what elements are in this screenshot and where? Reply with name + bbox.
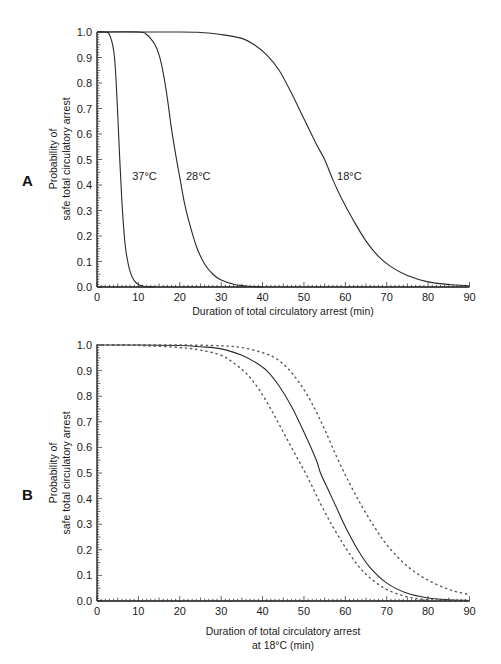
y-tick-label: 0.7 bbox=[77, 103, 92, 115]
x-tick-label: 30 bbox=[215, 605, 227, 617]
y-tick-label: 0.6 bbox=[77, 441, 92, 453]
figure: A Probability of safe total circulatory … bbox=[0, 0, 501, 664]
curve-lower-confidence-limit bbox=[97, 345, 470, 601]
y-tick-label: 0.8 bbox=[77, 77, 92, 89]
panel-a-curves bbox=[97, 32, 470, 287]
x-tick-label: 70 bbox=[381, 605, 393, 617]
y-tick-label: 0.9 bbox=[77, 52, 92, 64]
y-tick-label: 0.3 bbox=[77, 518, 92, 530]
panel-b-y-axis-title-line2: safe total circulatory arrest bbox=[60, 411, 72, 534]
x-tick-label: 60 bbox=[339, 291, 351, 303]
curve-label: 18°C bbox=[337, 170, 362, 182]
x-tick-label: 60 bbox=[339, 605, 351, 617]
y-tick-label: 0.4 bbox=[77, 493, 92, 505]
panel-b-letter: B bbox=[22, 486, 33, 503]
panel-b-x-axis-title-line2: at 18°C (min) bbox=[252, 639, 314, 651]
x-tick-label: 10 bbox=[132, 605, 144, 617]
x-tick-label: 70 bbox=[381, 291, 393, 303]
x-tick-label: 50 bbox=[298, 605, 310, 617]
curve-label: 28°C bbox=[186, 170, 211, 182]
y-tick-label: 0.2 bbox=[77, 230, 92, 242]
x-tick-label: 90 bbox=[463, 605, 475, 617]
curve-28-c bbox=[97, 32, 263, 287]
x-tick-label: 50 bbox=[298, 291, 310, 303]
x-tick-label: 90 bbox=[463, 291, 475, 303]
y-tick-label: 0.3 bbox=[77, 205, 92, 217]
y-tick-label: 0.1 bbox=[77, 569, 92, 581]
curve-upper-confidence-limit bbox=[97, 345, 470, 595]
y-tick-label: 0.8 bbox=[77, 390, 92, 402]
y-tick-label: 0.5 bbox=[77, 154, 92, 166]
panel-a-curve-labels: 37°C28°C18°C bbox=[132, 170, 362, 182]
curve-37-c bbox=[97, 32, 155, 287]
panel-b-y-axis-title-line1: Probability of bbox=[47, 443, 59, 504]
panel-b-chart: B Probability of safe total circulatory … bbox=[22, 339, 476, 651]
curve-estimate bbox=[97, 345, 470, 601]
x-tick-label: 0 bbox=[94, 291, 100, 303]
x-tick-label: 80 bbox=[422, 605, 434, 617]
y-tick-label: 0.7 bbox=[77, 416, 92, 428]
y-tick-label: 0.9 bbox=[77, 365, 92, 377]
x-tick-label: 40 bbox=[256, 605, 268, 617]
y-tick-label: 0.6 bbox=[77, 128, 92, 140]
x-tick-label: 0 bbox=[94, 605, 100, 617]
panel-b-axes: 0.00.10.20.30.40.50.60.70.80.91.00102030… bbox=[77, 339, 476, 617]
x-tick-label: 80 bbox=[422, 291, 434, 303]
y-tick-label: 0.0 bbox=[77, 595, 92, 607]
panel-a-y-axis-title-line2: safe total circulatory arrest bbox=[60, 97, 72, 220]
panel-a-x-axis-title: Duration of total circulatory arrest (mi… bbox=[192, 305, 373, 317]
panel-a-letter: A bbox=[22, 172, 33, 189]
x-tick-label: 30 bbox=[215, 291, 227, 303]
x-tick-label: 20 bbox=[174, 291, 186, 303]
y-tick-label: 0.1 bbox=[77, 256, 92, 268]
curve-18-c bbox=[97, 32, 470, 286]
panel-a-axes: 0.00.10.20.30.40.50.60.70.80.91.00102030… bbox=[77, 26, 476, 303]
panel-a-chart: A Probability of safe total circulatory … bbox=[22, 26, 476, 317]
y-tick-label: 1.0 bbox=[77, 26, 92, 38]
x-tick-label: 40 bbox=[256, 291, 268, 303]
y-tick-label: 0.0 bbox=[77, 281, 92, 293]
x-tick-label: 10 bbox=[132, 291, 144, 303]
x-tick-label: 20 bbox=[174, 605, 186, 617]
y-tick-label: 0.2 bbox=[77, 544, 92, 556]
y-tick-label: 0.5 bbox=[77, 467, 92, 479]
y-tick-label: 0.4 bbox=[77, 179, 92, 191]
y-tick-label: 1.0 bbox=[77, 339, 92, 351]
panel-b-curves bbox=[97, 345, 470, 601]
panel-a-y-axis-title-line1: Probability of bbox=[47, 129, 59, 190]
panel-b-x-axis-title-line1: Duration of total circulatory arrest bbox=[206, 625, 361, 637]
curve-label: 37°C bbox=[132, 170, 157, 182]
